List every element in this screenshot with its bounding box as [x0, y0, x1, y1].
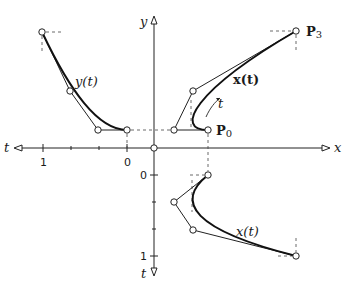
- t-axis-left-label: t: [4, 140, 10, 155]
- x-of-t-curve: [193, 175, 296, 256]
- t-axis-down-arrow-icon: [151, 268, 157, 276]
- control-point: [205, 172, 211, 178]
- y-of-t-label: y(t): [74, 74, 98, 89]
- y-axis-label: y: [139, 14, 148, 29]
- p0-subscript: 0: [226, 128, 232, 139]
- p3-label: P3: [306, 24, 322, 40]
- control-point: [293, 253, 299, 259]
- x-of-t-control-polygon: [174, 175, 296, 256]
- t-down-tick-label-1: 1: [140, 250, 147, 263]
- control-point: [67, 88, 73, 94]
- bezier-diagram: y(t) x(t) t P0 P3 x(t) x y t t 1 0 0 1: [0, 0, 356, 294]
- p3-subscript: 3: [316, 29, 322, 40]
- p0-label: P0: [216, 123, 232, 139]
- t-tick-label-0: 0: [124, 156, 131, 169]
- y-axis-arrow-icon: [151, 16, 157, 24]
- t-down-tick-label-0: 0: [140, 169, 147, 182]
- x-of-t-label: x(t): [236, 224, 259, 239]
- origin-marker: [151, 145, 157, 151]
- x-axis-label: x: [334, 140, 342, 155]
- direction-t-label: t: [218, 96, 224, 111]
- p0-letter: P: [216, 123, 226, 138]
- control-point: [39, 29, 45, 35]
- control-point-p1: [171, 127, 177, 133]
- control-point: [95, 127, 101, 133]
- main-curve-label: x(t): [233, 72, 259, 87]
- control-point: [190, 227, 196, 233]
- x-axis-arrow-icon: [322, 145, 330, 151]
- control-point-p2: [190, 88, 196, 94]
- t-axis-left-arrow-icon: [14, 145, 22, 151]
- t-axis-down-label: t: [141, 266, 147, 281]
- main-curve-group: x(t) t P0 P3: [171, 24, 322, 139]
- guide-lines: [42, 31, 296, 256]
- control-point: [171, 199, 177, 205]
- control-point-p3: [293, 28, 299, 34]
- p3-letter: P: [306, 24, 316, 39]
- control-point: [124, 127, 130, 133]
- t-tick-label-1: 1: [40, 156, 47, 169]
- x-of-t-curve-group: x(t): [171, 172, 299, 259]
- axes: [14, 16, 330, 276]
- y-of-t-curve-group: y(t): [39, 29, 130, 133]
- control-point-p0: [205, 127, 211, 133]
